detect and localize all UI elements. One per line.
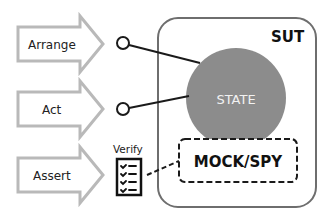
arrange-port-icon — [117, 37, 129, 49]
act-label: Act — [42, 103, 62, 117]
assert-arrow: Assert — [18, 147, 103, 203]
arrange-connector-line — [129, 45, 200, 63]
mock-spy-label: MOCK/SPY — [194, 153, 284, 171]
sut-label: SUT — [271, 28, 305, 46]
act-arrow: Act — [18, 81, 103, 137]
checklist-icon — [117, 159, 141, 195]
arrange-label: Arrange — [28, 38, 76, 52]
act-port-icon — [117, 103, 129, 115]
assert-label: Assert — [33, 169, 71, 183]
aaa-diagram: SUT STATE MOCK/SPY Arrange Act Assert Ve… — [0, 0, 333, 217]
arrange-arrow: Arrange — [18, 16, 103, 72]
verify-label: Verify — [113, 143, 143, 155]
verify-connector-line — [147, 161, 179, 175]
state-label: STATE — [216, 92, 255, 107]
